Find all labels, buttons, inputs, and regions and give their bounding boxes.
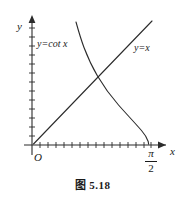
y-axis-arrowhead bbox=[29, 15, 36, 23]
figure-caption: 图 5.18 bbox=[0, 176, 185, 192]
pi-numerator: π bbox=[140, 148, 162, 161]
cotangent-curve bbox=[76, 22, 149, 144]
y-axis-label: y bbox=[17, 21, 22, 32]
cotangent-curve-label: y=cot x bbox=[37, 39, 67, 49]
x-axis-label: x bbox=[170, 146, 175, 157]
identity-line-label: y=x bbox=[134, 43, 150, 53]
origin-label: O bbox=[34, 152, 42, 163]
figure-container: y x O y=cot x y=x π 2 图 5.18 bbox=[0, 0, 185, 199]
pi-denominator: 2 bbox=[140, 162, 162, 175]
x-axis-pi-half-tick-label: π 2 bbox=[140, 148, 162, 174]
